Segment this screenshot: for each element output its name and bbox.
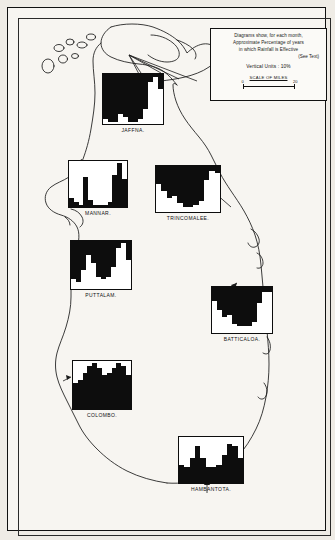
chart-label-trincomalee: TRINCOMALEE.: [155, 215, 221, 221]
chart-mannar: [68, 160, 128, 208]
legend-vertical-units: Vertical Units : 10%: [215, 64, 322, 69]
legend-line-2: Approximate Percentage of years: [215, 40, 322, 47]
chart-hambantota: [178, 436, 244, 484]
bar-D: [215, 173, 220, 212]
legend-line-3: in which Rainfall is Effective: [215, 47, 322, 54]
map-page: Diagrams show, for each month, Approxima…: [0, 0, 335, 540]
map-frame: Diagrams show, for each month, Approxima…: [7, 7, 326, 531]
chart-puttalam-bars: [71, 241, 131, 289]
chart-label-batticaloa: BATTICALOA.: [211, 336, 273, 342]
chart-label-hambantota: HAMBANTOTA.: [178, 486, 244, 492]
scale-of-miles: SCALE OF MILES 0 20: [215, 75, 322, 91]
scale-tick-left: [243, 84, 244, 89]
bar-D: [122, 179, 127, 207]
chart-puttalam: [70, 240, 132, 290]
bar-D: [238, 458, 243, 483]
bar-D: [267, 292, 272, 333]
bar-D: [158, 89, 163, 124]
scale-line: [243, 86, 295, 87]
bar-D: [126, 260, 131, 289]
chart-label-mannar: MANNAR.: [68, 210, 128, 216]
legend-see-text: (See Text): [215, 54, 322, 59]
chart-label-jaffna: JAFFNA.: [102, 127, 164, 133]
legend-box: Diagrams show, for each month, Approxima…: [210, 28, 327, 101]
chart-trincomalee: [155, 165, 221, 213]
scale-title: SCALE OF MILES: [215, 75, 322, 80]
scale-tick-right: [294, 84, 295, 89]
chart-hambantota-bars: [179, 437, 243, 483]
chart-jaffna-bars: [103, 74, 163, 124]
chart-mannar-bars: [69, 161, 127, 207]
chart-colombo-bars: [73, 361, 131, 409]
chart-batticaloa-bars: [212, 287, 272, 333]
chart-label-colombo: COLOMBO.: [72, 412, 132, 418]
legend-line-1: Diagrams show, for each month,: [215, 33, 322, 40]
chart-jaffna: [102, 73, 164, 125]
chart-batticaloa: [211, 286, 273, 334]
bar-D: [126, 375, 131, 409]
scale-bar: 0 20: [243, 82, 295, 91]
chart-label-puttalam: PUTTALAM.: [70, 292, 132, 298]
chart-trincomalee-bars: [156, 166, 220, 212]
chart-colombo: [72, 360, 132, 410]
